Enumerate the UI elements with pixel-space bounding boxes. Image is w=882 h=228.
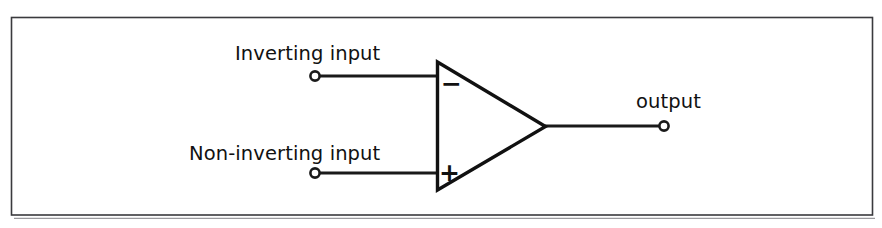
opamp-schematic-svg: [0, 0, 882, 228]
inverting-input-terminal-circle: [310, 71, 319, 80]
opamp-figure: Inverting input Non-inverting input outp…: [0, 0, 882, 228]
inverting-minus-sign: −: [441, 71, 462, 96]
output-terminal-circle: [659, 121, 668, 130]
output-label: output: [636, 92, 701, 112]
non-inverting-input-terminal-circle: [310, 168, 319, 177]
non-inverting-input-label: Non-inverting input: [189, 144, 380, 164]
non-inverting-plus-sign: +: [439, 160, 460, 185]
inverting-input-label: Inverting input: [235, 44, 380, 64]
